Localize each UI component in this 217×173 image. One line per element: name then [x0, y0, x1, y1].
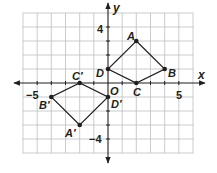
- point-c: [134, 81, 139, 86]
- label-c-prime: C′: [72, 70, 84, 82]
- point-b: [162, 67, 167, 72]
- tick-label-x-neg5: −5: [26, 89, 39, 101]
- tick-label-y-neg4: −4: [89, 133, 102, 145]
- origin-label: O: [110, 85, 119, 97]
- tick-label-x-5: 5: [176, 89, 182, 101]
- y-axis-label: y: [112, 1, 121, 15]
- point-d: [106, 67, 111, 72]
- label-d-prime: D′: [111, 98, 123, 110]
- label-b: B: [168, 67, 176, 79]
- point-d-prime: [106, 95, 111, 100]
- label-d: D: [96, 67, 104, 79]
- label-a: A: [126, 30, 135, 42]
- coordinate-plane: x y −5 5 4 −4 O A B C D A′ B′ C′ D′: [0, 0, 217, 173]
- tick-label-y-4: 4: [97, 23, 104, 35]
- label-c: C: [133, 86, 142, 98]
- point-b-prime: [49, 95, 54, 100]
- point-a-prime: [77, 123, 82, 128]
- label-b-prime: B′: [39, 99, 51, 111]
- x-axis-label: x: [197, 68, 206, 82]
- label-a-prime: A′: [64, 127, 77, 139]
